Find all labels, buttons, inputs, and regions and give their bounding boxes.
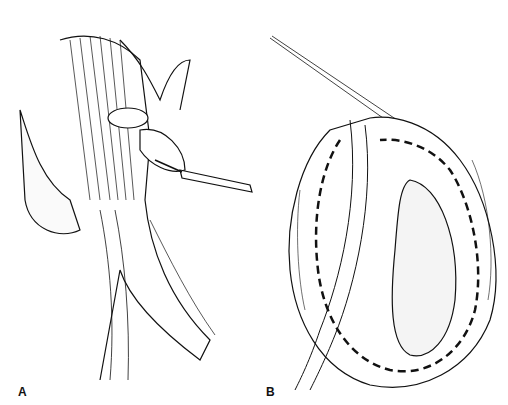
panel-a-drawing bbox=[20, 36, 252, 380]
scalpel bbox=[180, 170, 252, 192]
illustration bbox=[0, 0, 508, 405]
panel-b-drawing bbox=[270, 36, 496, 390]
panel-label-a: A bbox=[18, 385, 27, 399]
panel-label-b: B bbox=[266, 385, 275, 399]
